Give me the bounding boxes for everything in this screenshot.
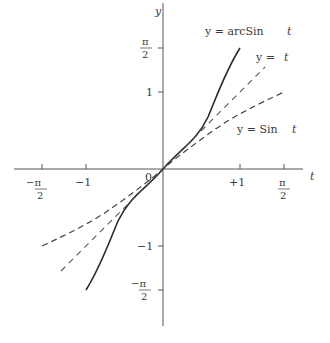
svg-text:2: 2 <box>141 291 147 302</box>
arcsin-annotation: y = arcSin t <box>204 25 292 38</box>
identity-annotation: y = t <box>255 51 289 64</box>
svg-text:π: π <box>279 177 286 188</box>
tick-label-pos-one-x: +1 <box>229 176 245 189</box>
tick-label-neg-one-x: −1 <box>75 176 91 189</box>
svg-text:y = Sin: y = Sin <box>236 123 278 136</box>
svg-text:t: t <box>292 123 297 136</box>
tick-label-one-y: 1 <box>146 86 153 99</box>
svg-text:2: 2 <box>280 190 286 201</box>
sin-annotation: y = Sin t <box>236 123 297 136</box>
plot-canvas: y t 0 −π 2 −1 +1 π 2 π 2 1 −1 −π 2 <box>0 0 330 343</box>
svg-text:t: t <box>287 25 292 38</box>
svg-text:y =: y = <box>255 51 275 64</box>
tick-label-neg-one-y: −1 <box>137 240 153 253</box>
svg-text:−π: −π <box>131 278 146 289</box>
tick-label-half-pi-x: π 2 <box>278 177 290 201</box>
svg-text:−π: −π <box>26 177 41 188</box>
svg-text:t: t <box>284 51 289 64</box>
tick-label-neg-half-pi-y: −π 2 <box>131 278 151 302</box>
svg-text:y = arcSin: y = arcSin <box>204 25 264 38</box>
tick-label-neg-half-pi: −π 2 <box>26 177 47 201</box>
y-axis-label: y <box>154 5 162 18</box>
svg-text:π: π <box>142 36 149 47</box>
svg-text:2: 2 <box>37 190 43 201</box>
function-plot-figure: y t 0 −π 2 −1 +1 π 2 π 2 1 −1 −π 2 <box>0 0 330 343</box>
tick-label-half-pi-y: π 2 <box>140 36 152 60</box>
t-axis-label: t <box>310 170 315 183</box>
svg-text:2: 2 <box>142 49 148 60</box>
origin-label: 0 <box>145 171 152 184</box>
